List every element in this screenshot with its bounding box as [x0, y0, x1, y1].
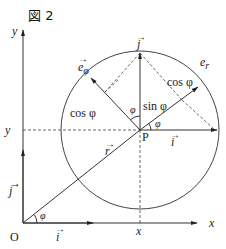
figure-title: 図 2 — [28, 8, 53, 23]
j-top-arrow-mark: → — [136, 31, 146, 42]
dash-ephi-tick — [105, 80, 118, 92]
i-p-arrow-mark: → — [170, 129, 180, 140]
j-arrow-mark: → — [9, 176, 21, 190]
phi-label-origin: φ — [40, 210, 46, 221]
i-arrow-mark: → — [55, 223, 65, 234]
x-coordinate-label: x — [135, 224, 142, 238]
phi-label-center-right: φ — [155, 118, 161, 129]
phi-arc-p-right — [149, 124, 151, 131]
r-arrow-mark: → — [105, 138, 115, 149]
point-p-label: P — [142, 130, 149, 144]
phi-arc-origin — [35, 215, 38, 223]
cos-phi-right-label: cos φ — [167, 75, 193, 89]
r-vector — [23, 130, 140, 223]
dash-er-to-i — [182, 100, 215, 130]
phi-label-center-left: φ — [130, 104, 136, 115]
e-phi-arrow-mark: → — [78, 53, 88, 64]
y-axis-label: y — [11, 24, 18, 38]
dash-j-to-ephi — [105, 53, 140, 92]
x-axis-label: x — [208, 216, 215, 230]
e-r-label: er — [200, 55, 209, 71]
cos-phi-left-label: cos φ — [70, 106, 96, 120]
y-coordinate-label: y — [4, 123, 11, 137]
polar-unit-vector-diagram: 図 2 y x O j → i → φ r → y x j → i → er e… — [0, 0, 226, 249]
origin-label: O — [10, 230, 19, 244]
sin-phi-label: sin φ — [143, 99, 167, 113]
phi-arc-p-left — [131, 116, 141, 120]
